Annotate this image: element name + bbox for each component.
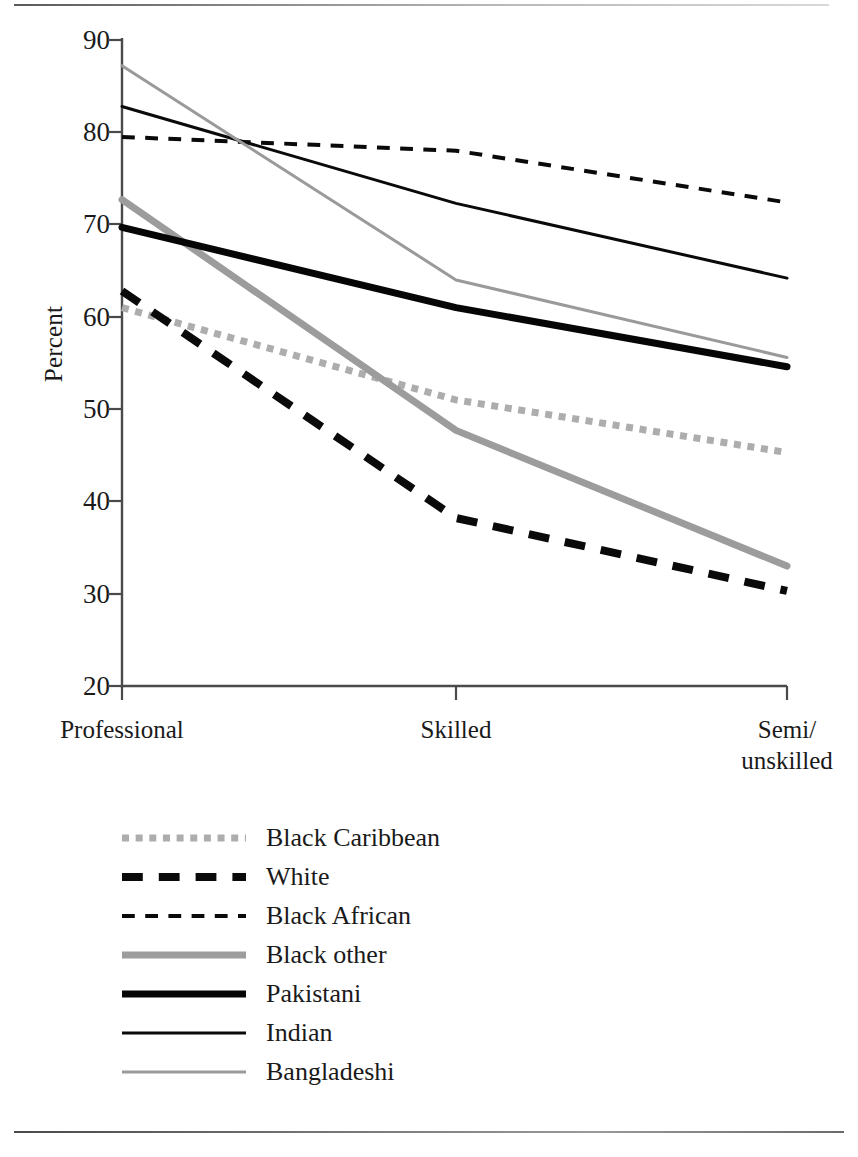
legend-swatch-black-african-icon: [120, 906, 248, 926]
legend-label-indian: Indian: [248, 1020, 332, 1046]
chart-legend: Black CaribbeanWhiteBlack AfricanBlack o…: [120, 818, 680, 1091]
legend-label-black-caribbean: Black Caribbean: [248, 825, 440, 851]
series-line-black-african: [122, 137, 787, 203]
series-line-bangladeshi: [122, 66, 787, 358]
legend-item-pakistani[interactable]: Pakistani: [120, 974, 680, 1013]
legend-swatch-black-other-icon: [120, 945, 248, 965]
plot-canvas: [0, 0, 858, 800]
legend-item-black-caribbean[interactable]: Black Caribbean: [120, 818, 680, 857]
legend-label-black-other: Black other: [248, 942, 387, 968]
legend-swatch-bangladeshi-icon: [120, 1062, 248, 1082]
x-tick-label-skilled: Skilled: [421, 714, 492, 745]
line-chart: Percent 90 80 70 60 50 40 30 20: [0, 0, 858, 800]
legend-item-white[interactable]: White: [120, 857, 680, 896]
bottom-divider-rule: [14, 1131, 844, 1133]
x-tick-label-semi-unskilled: Semi/ unskilled: [741, 714, 833, 777]
series-line-pakistani: [122, 227, 787, 366]
legend-item-black-african[interactable]: Black African: [120, 896, 680, 935]
legend-item-indian[interactable]: Indian: [120, 1013, 680, 1052]
figure-page: Percent 90 80 70 60 50 40 30 20: [0, 0, 858, 1157]
legend-label-black-african: Black African: [248, 903, 411, 929]
legend-label-pakistani: Pakistani: [248, 981, 361, 1007]
legend-label-bangladeshi: Bangladeshi: [248, 1059, 395, 1085]
x-axis-ticks: [122, 686, 787, 700]
legend-swatch-pakistani-icon: [120, 984, 248, 1004]
legend-swatch-white-icon: [120, 867, 248, 887]
legend-swatch-indian-icon: [120, 1023, 248, 1043]
x-tick-label-professional: Professional: [60, 714, 184, 745]
legend-item-black-other[interactable]: Black other: [120, 935, 680, 974]
legend-swatch-black-caribbean-icon: [120, 828, 248, 848]
y-axis-ticks: [108, 40, 122, 686]
legend-label-white: White: [248, 864, 330, 890]
legend-item-bangladeshi[interactable]: Bangladeshi: [120, 1052, 680, 1091]
series-line-white: [122, 291, 787, 591]
data-series-layer: [122, 66, 787, 591]
